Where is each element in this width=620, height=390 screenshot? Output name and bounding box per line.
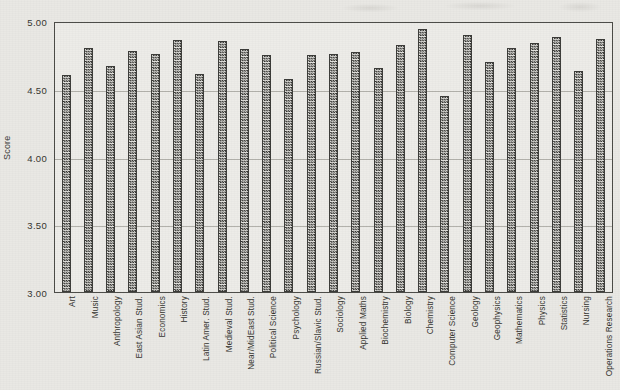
- x-label-slot: Anthropology: [99, 296, 121, 388]
- bar-slot: [233, 23, 255, 292]
- x-label-slot: Geophysics: [479, 296, 501, 388]
- bar[interactable]: [351, 52, 360, 292]
- bar-slot: [300, 23, 322, 292]
- bar-slot: [144, 23, 166, 292]
- y-axis-tick-label: 4.00: [1, 152, 47, 163]
- y-axis-tick-label: 3.50: [1, 220, 47, 231]
- x-label-slot: History: [166, 296, 188, 388]
- bar-slot: [278, 23, 300, 292]
- x-label-slot: Nursing: [568, 296, 590, 388]
- bar[interactable]: [552, 37, 561, 292]
- bar[interactable]: [374, 68, 383, 292]
- y-axis-tick-label: 4.50: [1, 84, 47, 95]
- bar-slot: [434, 23, 456, 292]
- bar-slot: [590, 23, 612, 292]
- x-axis-tick-labels: ArtMusicAnthropologyEast Asian Stud.Econ…: [54, 296, 613, 388]
- x-label-slot: Art: [54, 296, 76, 388]
- plot-area: [54, 22, 613, 293]
- x-label-slot: Near/MidEast Stud.: [233, 296, 255, 388]
- bar[interactable]: [218, 41, 227, 292]
- bar-slot: [345, 23, 367, 292]
- bar-slot: [545, 23, 567, 292]
- x-label-slot: Economics: [143, 296, 165, 388]
- x-label-slot: Operations Research: [591, 296, 613, 388]
- x-label-slot: East Asian Stud.: [121, 296, 143, 388]
- bar-slot: [256, 23, 278, 292]
- x-label-slot: Biology: [389, 296, 411, 388]
- x-label-slot: Physics: [524, 296, 546, 388]
- bar-series: [55, 23, 612, 292]
- x-label-slot: Political Science: [255, 296, 277, 388]
- bar[interactable]: [284, 79, 293, 292]
- y-axis-tick-label: 3.00: [1, 288, 47, 299]
- bar-slot: [77, 23, 99, 292]
- x-label-slot: Music: [76, 296, 98, 388]
- bar[interactable]: [396, 45, 405, 292]
- x-label-slot: Medieval Stud.: [211, 296, 233, 388]
- bar-slot: [322, 23, 344, 292]
- bar[interactable]: [485, 62, 494, 292]
- bar[interactable]: [574, 71, 583, 292]
- bar[interactable]: [596, 39, 605, 292]
- x-label-slot: Biochemistry: [367, 296, 389, 388]
- x-label-slot: Computer Science: [434, 296, 456, 388]
- bar-slot: [166, 23, 188, 292]
- scan-bleed-through-artifact: [330, 0, 620, 18]
- bar[interactable]: [173, 40, 182, 292]
- bar-slot: [211, 23, 233, 292]
- x-label-slot: Sociology: [322, 296, 344, 388]
- bar-chart: Score 5.004.504.003.503.00 ArtMusicAnthr…: [0, 0, 620, 390]
- bar[interactable]: [530, 43, 539, 292]
- bar-slot: [456, 23, 478, 292]
- x-label-slot: Latin Amer. Stud.: [188, 296, 210, 388]
- bar-slot: [55, 23, 77, 292]
- bar-slot: [523, 23, 545, 292]
- bar-slot: [501, 23, 523, 292]
- bar[interactable]: [84, 48, 93, 292]
- y-axis-tick-labels: 5.004.504.003.503.00: [0, 0, 47, 390]
- x-axis-tick-label: Operations Research: [605, 296, 614, 376]
- bar[interactable]: [463, 35, 472, 292]
- bar[interactable]: [62, 75, 71, 292]
- bar-slot: [478, 23, 500, 292]
- bar[interactable]: [151, 54, 160, 292]
- bar[interactable]: [418, 29, 427, 292]
- bar[interactable]: [329, 54, 338, 292]
- bar-slot: [389, 23, 411, 292]
- x-label-slot: Russian/Slavic Stud.: [300, 296, 322, 388]
- bar[interactable]: [307, 55, 316, 292]
- bar[interactable]: [128, 51, 137, 292]
- x-label-slot: Chemistry: [412, 296, 434, 388]
- bar[interactable]: [195, 74, 204, 292]
- bar-slot: [122, 23, 144, 292]
- bar[interactable]: [507, 48, 516, 292]
- bar-slot: [412, 23, 434, 292]
- bar-slot: [189, 23, 211, 292]
- bar-slot: [367, 23, 389, 292]
- bar[interactable]: [262, 55, 271, 292]
- x-label-slot: Mathematics: [501, 296, 523, 388]
- x-label-slot: Geology: [456, 296, 478, 388]
- bar-slot: [567, 23, 589, 292]
- bar[interactable]: [440, 96, 449, 292]
- bar[interactable]: [106, 66, 115, 292]
- x-label-slot: Statistics: [546, 296, 568, 388]
- bar[interactable]: [240, 49, 249, 292]
- y-axis-tick-label: 5.00: [1, 17, 47, 28]
- x-label-slot: Applied Maths: [345, 296, 367, 388]
- bar-slot: [100, 23, 122, 292]
- x-label-slot: Psychology: [278, 296, 300, 388]
